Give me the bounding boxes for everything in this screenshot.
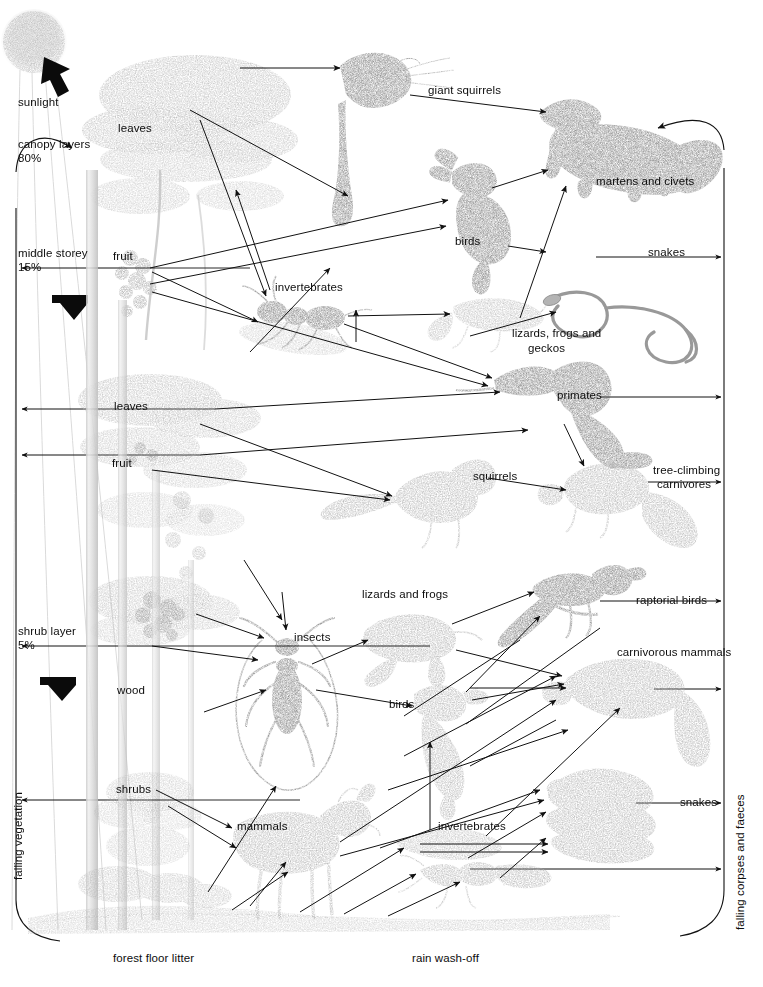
diagram-artwork	[0, 0, 763, 987]
label-shrub-layer: shrub layer	[18, 625, 76, 638]
label-invertebrates-upper: invertebrates	[275, 281, 343, 294]
label-raptorial-birds: raptorial birds	[636, 594, 707, 607]
label-canopy-percent: 80%	[18, 152, 41, 165]
food-web-diagram: sunlight canopy layers 80% middle storey…	[0, 0, 763, 987]
label-birds-lower: birds	[389, 698, 414, 711]
label-tree-climbing-line1: tree-climbing	[653, 464, 720, 477]
label-shrub-percent: 5%	[18, 639, 35, 652]
label-carnivorous-mammals: carnivorous mammals	[617, 646, 731, 659]
python-figure	[544, 769, 655, 864]
label-fruit-mid: fruit	[112, 457, 132, 470]
label-mammals: mammals	[237, 820, 288, 833]
label-martens-and-civets: martens and civets	[596, 175, 694, 188]
label-snakes-lower: snakes	[680, 796, 717, 809]
label-birds-upper: birds	[455, 235, 480, 248]
label-giant-squirrels: giant squirrels	[428, 84, 501, 97]
label-falling-corpses-and-faeces: falling corpses and faeces	[734, 794, 747, 930]
label-lizards-frogs-geckos-line2: geckos	[528, 342, 565, 355]
label-lizards-frogs-geckos-line1: lizards, frogs and	[512, 327, 601, 340]
label-squirrels: squirrels	[473, 470, 517, 483]
label-canopy-layers: canopy layers	[18, 138, 90, 151]
label-invertebrates-lower: invertebrates	[438, 820, 506, 833]
label-wood: wood	[117, 684, 145, 697]
label-forest-floor-litter: forest floor litter	[113, 952, 194, 965]
label-falling-vegetation: falling vegetation	[12, 792, 25, 880]
label-primates: primates	[557, 389, 602, 402]
label-middle-storey: middle storey	[18, 247, 88, 260]
label-insects: insects	[294, 631, 331, 644]
label-rain-wash-off: rain wash-off	[412, 952, 479, 965]
label-lizards-and-frogs: lizards and frogs	[362, 588, 448, 601]
label-snakes-upper: snakes	[648, 246, 685, 259]
label-fruit-top: fruit	[113, 250, 133, 263]
label-leaves-top: leaves	[118, 122, 152, 135]
label-sunlight: sunlight	[18, 96, 58, 109]
label-shrubs: shrubs	[116, 783, 151, 796]
label-middle-percent: 15%	[18, 261, 41, 274]
label-tree-climbing-line2: carnivores	[657, 478, 711, 491]
label-leaves-mid: leaves	[114, 400, 148, 413]
